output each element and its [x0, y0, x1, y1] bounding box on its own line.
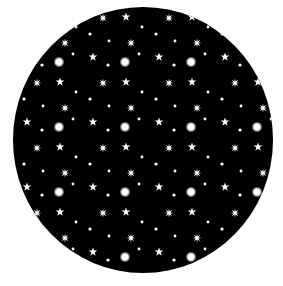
starry-circle-graphic	[0, 0, 283, 286]
stars-layer	[0, 0, 283, 286]
